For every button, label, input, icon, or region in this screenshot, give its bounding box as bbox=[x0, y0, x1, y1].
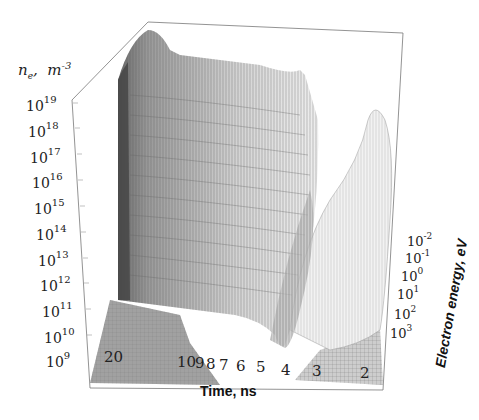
y-tick: 101 bbox=[397, 286, 419, 302]
z-tick: 1016 bbox=[32, 173, 63, 191]
z-axis-label: ne, m-3 bbox=[18, 60, 71, 81]
z-tick: 109 bbox=[46, 352, 70, 370]
y-tick: 10-2 bbox=[407, 233, 432, 249]
z-label-symbol: n bbox=[18, 61, 28, 79]
z-tick: 1013 bbox=[38, 251, 69, 269]
z-label-unit: m bbox=[47, 61, 61, 79]
x-axis-label: Time, ns bbox=[200, 383, 257, 399]
z-tick: 1010 bbox=[44, 328, 75, 346]
x-tick: 9 bbox=[195, 354, 205, 372]
z-label-exponent: -3 bbox=[62, 60, 72, 71]
x-tick: 5 bbox=[256, 358, 266, 376]
x-tick: 6 bbox=[236, 357, 246, 375]
z-tick: 1019 bbox=[26, 96, 57, 114]
x-tick: 20 bbox=[104, 348, 123, 366]
x-tick: 10 bbox=[177, 353, 196, 371]
y-tick: 100 bbox=[401, 268, 423, 284]
x-tick: 7 bbox=[219, 356, 229, 374]
x-tick: 8 bbox=[206, 355, 216, 373]
y-tick: 10-1 bbox=[405, 250, 430, 266]
z-tick: 1011 bbox=[42, 302, 73, 320]
x-tick: 4 bbox=[281, 361, 291, 379]
z-tick: 1014 bbox=[36, 225, 67, 243]
z-label-subscript: e bbox=[28, 71, 33, 81]
z-tick: 1017 bbox=[30, 148, 61, 166]
z-tick: 1015 bbox=[34, 199, 65, 217]
y-tick: 103 bbox=[390, 325, 412, 341]
z-tick: 1018 bbox=[28, 122, 59, 140]
x-tick: 2 bbox=[360, 364, 370, 382]
y-tick: 102 bbox=[394, 306, 416, 322]
z-tick: 1012 bbox=[40, 276, 71, 294]
x-tick: 3 bbox=[312, 362, 322, 380]
z-axis-ticks bbox=[73, 103, 92, 335]
